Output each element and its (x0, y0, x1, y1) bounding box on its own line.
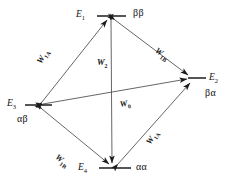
node-label-E1-subscript: 1 (82, 14, 85, 21)
edge-label-E1-E4: W2 (97, 58, 108, 69)
edge-label-E1-E4-symbol: W (97, 57, 105, 67)
edge-line-E3-E2 (43, 79, 187, 104)
transition-diagram-graphic (0, 0, 225, 186)
node-label-E4: E4 (78, 163, 87, 174)
edge-line-E3-E4 (42, 109, 109, 164)
spin-label-E4: αα (136, 162, 147, 172)
node-label-E2-subscript: 2 (215, 77, 218, 84)
edge-label-E1-E4-subscript: 2 (105, 63, 108, 69)
spin-label-E1: ββ (133, 8, 144, 18)
node-label-E4-subscript: 4 (84, 167, 87, 174)
spin-label-E2: βα (205, 88, 216, 98)
edge-line-E1-E2 (115, 20, 188, 75)
edge-label-E3-E2: W0 (119, 98, 131, 111)
diagram-canvas: E1 ββ E2 βα E3 αβ E4 αα W1A W1B W2 W0 W1… (0, 0, 225, 186)
edge-line-E4-E2 (118, 83, 190, 164)
spin-label-E3: αβ (17, 114, 28, 124)
node-label-E3-subscript: 3 (13, 103, 16, 110)
node-label-E2: E2 (209, 73, 218, 84)
node-label-E3: E3 (7, 99, 16, 110)
node-label-E1: E1 (76, 10, 85, 21)
